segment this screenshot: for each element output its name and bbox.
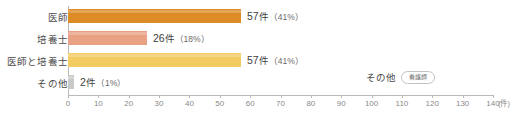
x-tick-label-70: 70 bbox=[276, 100, 285, 108]
bar-percent-2: （41%） bbox=[269, 56, 304, 66]
bar-doctor-and-embryologist bbox=[68, 53, 241, 67]
plot-area: 57件（41%） 26件（18%） 57件（41%） 2件（1%） 010203… bbox=[68, 0, 493, 125]
x-tick-0 bbox=[68, 95, 69, 98]
x-tick-60 bbox=[250, 95, 251, 98]
bar-highlight-2 bbox=[68, 54, 241, 57]
x-tick-label-120: 120 bbox=[426, 100, 439, 108]
annotation-other: その他 看護師 bbox=[366, 71, 435, 84]
x-tick-40 bbox=[189, 95, 190, 98]
annotation-label: その他 bbox=[366, 73, 396, 83]
x-tick-label-20: 20 bbox=[124, 100, 133, 108]
category-label-2: 医師と培養士 bbox=[0, 57, 68, 67]
x-tick-label-90: 90 bbox=[337, 100, 346, 108]
x-tick-label-0: 0 bbox=[66, 100, 70, 108]
bar-count-2: 57 bbox=[247, 54, 259, 66]
bar-unit-2: 件 bbox=[259, 55, 269, 66]
category-label-3: その他 bbox=[0, 79, 68, 89]
bar-count-0: 57 bbox=[247, 10, 259, 22]
x-tick-30 bbox=[159, 95, 160, 98]
bar-percent-1: （18%） bbox=[175, 34, 210, 44]
bar-highlight-1 bbox=[68, 32, 147, 35]
x-tick-label-60: 60 bbox=[246, 100, 255, 108]
x-axis-unit-label: (件) bbox=[498, 100, 510, 108]
bar-unit-3: 件 bbox=[86, 77, 96, 88]
x-tick-label-40: 40 bbox=[185, 100, 194, 108]
bar-highlight-0 bbox=[68, 10, 241, 13]
x-tick-140 bbox=[493, 95, 494, 98]
bar-doctor bbox=[68, 9, 241, 23]
x-tick-label-10: 10 bbox=[94, 100, 103, 108]
category-label-0: 医師 bbox=[0, 13, 68, 23]
x-tick-130 bbox=[463, 95, 464, 98]
x-tick-label-130: 130 bbox=[456, 100, 469, 108]
bar-value-label-1: 26件（18%） bbox=[153, 33, 210, 44]
x-tick-90 bbox=[341, 95, 342, 98]
x-tick-label-110: 110 bbox=[396, 100, 409, 108]
bar-unit-0: 件 bbox=[259, 11, 269, 22]
x-tick-120 bbox=[432, 95, 433, 98]
bar-unit-1: 件 bbox=[165, 33, 175, 44]
category-label-1: 培養士 bbox=[0, 35, 68, 45]
x-tick-10 bbox=[98, 95, 99, 98]
bar-percent-3: （1%） bbox=[96, 78, 126, 88]
x-tick-70 bbox=[281, 95, 282, 98]
annotation-badge-nurse: 看護師 bbox=[401, 71, 435, 84]
bar-percent-0: （41%） bbox=[269, 12, 304, 22]
bar-value-label-2: 57件（41%） bbox=[247, 55, 304, 66]
x-tick-label-100: 100 bbox=[365, 100, 378, 108]
x-tick-label-80: 80 bbox=[306, 100, 315, 108]
bar-highlight-3 bbox=[68, 76, 74, 79]
x-tick-label-30: 30 bbox=[155, 100, 164, 108]
x-tick-50 bbox=[220, 95, 221, 98]
x-tick-110 bbox=[402, 95, 403, 98]
bar-value-label-3: 2件（1%） bbox=[80, 77, 126, 88]
horizontal-bar-chart: 医師 培養士 医師と培養士 その他 57件（41%） 26件（18%） 57件（… bbox=[0, 0, 520, 125]
x-tick-label-50: 50 bbox=[215, 100, 224, 108]
x-tick-80 bbox=[311, 95, 312, 98]
x-tick-20 bbox=[129, 95, 130, 98]
bar-count-1: 26 bbox=[153, 32, 165, 44]
bar-embryologist bbox=[68, 31, 147, 45]
bar-other bbox=[68, 75, 74, 89]
x-tick-100 bbox=[372, 95, 373, 98]
bar-value-label-0: 57件（41%） bbox=[247, 11, 304, 22]
